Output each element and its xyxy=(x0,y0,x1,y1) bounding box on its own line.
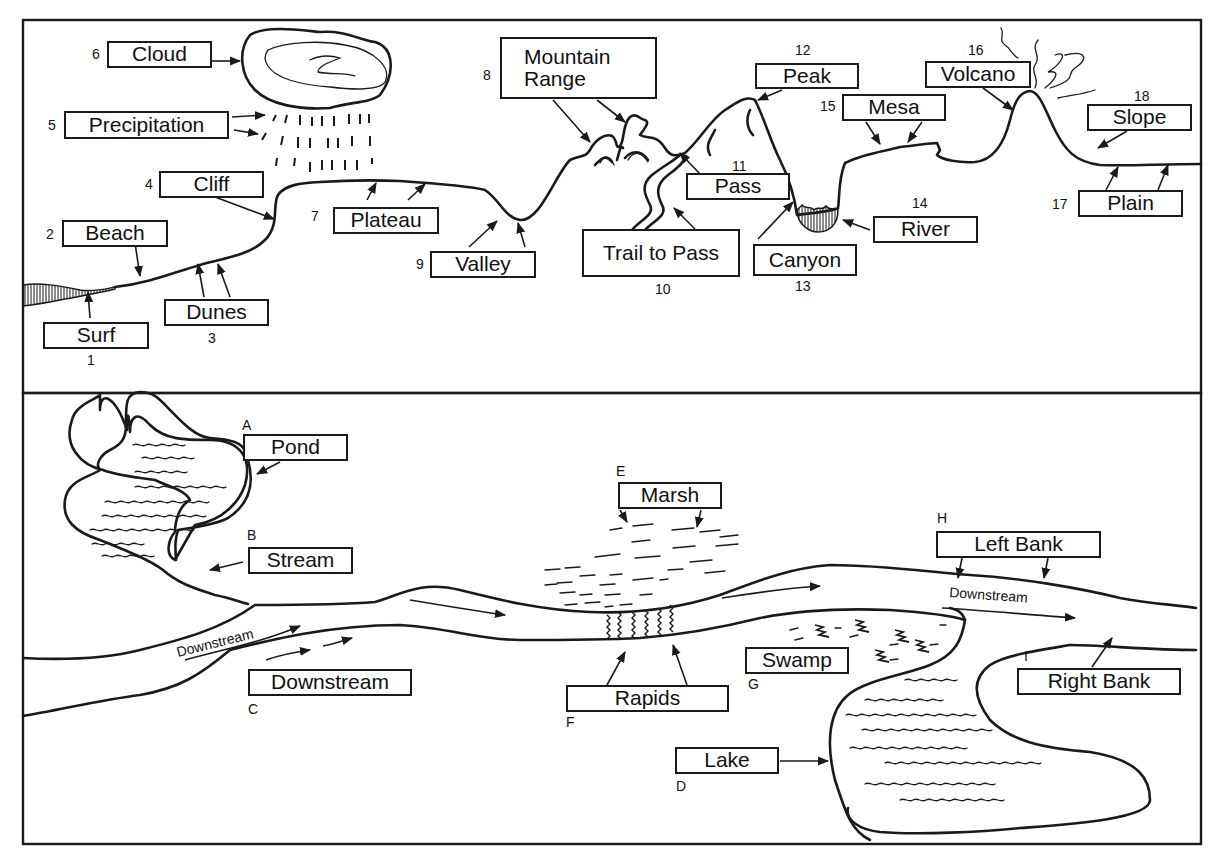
lake-waves xyxy=(846,679,1041,801)
label-number: 12 xyxy=(795,42,811,58)
label-rapids: Rapids xyxy=(566,685,729,712)
label-letter: F xyxy=(566,714,575,730)
precipitation-lines xyxy=(262,114,372,172)
label-number: 2 xyxy=(46,226,54,242)
label-number: 16 xyxy=(968,42,984,58)
label-number: 13 xyxy=(795,278,811,294)
label-cliff: Cliff xyxy=(159,171,264,198)
label-number: 17 xyxy=(1052,196,1068,212)
label-plain: Plain xyxy=(1078,190,1183,217)
label-volcano: Volcano xyxy=(925,61,1031,88)
label-letter: H xyxy=(937,510,947,526)
label-dunes: Dunes xyxy=(164,299,269,326)
label-beach: Beach xyxy=(62,220,168,247)
marsh-dashes xyxy=(545,524,738,607)
peak-ridges xyxy=(708,110,753,155)
label-lake: Lake xyxy=(675,747,779,774)
label-river: River xyxy=(873,216,978,243)
label-number: 7 xyxy=(311,208,319,224)
label-downstream: Downstream xyxy=(248,669,412,696)
label-right-bank: Right Bank xyxy=(1017,668,1181,695)
label-trail-to-pass: Trail to Pass xyxy=(582,229,740,277)
label-number: 14 xyxy=(912,195,928,211)
label-number: 5 xyxy=(48,117,56,133)
label-number: 18 xyxy=(1134,88,1150,104)
mountain-range-details xyxy=(595,147,648,165)
label-mountain-range-line1: Mountain xyxy=(524,46,610,68)
label-mountain-range: Mountain Range xyxy=(500,37,657,99)
flow-label-downstream-1: Downstream xyxy=(175,625,255,660)
label-number: 1 xyxy=(87,352,95,368)
label-number: 9 xyxy=(416,256,424,272)
label-plateau: Plateau xyxy=(333,207,439,234)
label-left-bank: Left Bank xyxy=(936,531,1101,558)
label-mesa: Mesa xyxy=(842,94,946,121)
cloud-shape xyxy=(242,29,390,108)
label-number: 15 xyxy=(820,98,836,114)
trail-shape xyxy=(632,155,686,230)
label-number: 11 xyxy=(732,158,747,174)
label-stream: Stream xyxy=(248,547,353,574)
label-number: 3 xyxy=(208,330,216,346)
label-letter: C xyxy=(248,701,258,717)
label-letter: B xyxy=(247,527,256,543)
label-letter: I xyxy=(1024,648,1028,664)
pond-waves xyxy=(90,444,226,557)
pond-outline xyxy=(65,392,251,604)
label-precipitation: Precipitation xyxy=(64,111,229,139)
canyon-river xyxy=(797,205,838,232)
label-mountain-range-line2: Range xyxy=(524,68,586,90)
bottom-panel-frame xyxy=(23,393,1201,844)
label-letter: D xyxy=(676,778,686,794)
right-bank-line xyxy=(1070,645,1196,650)
label-valley: Valley xyxy=(430,251,536,278)
surf-shape xyxy=(23,284,115,306)
label-pass: Pass xyxy=(686,173,790,200)
label-surf: Surf xyxy=(43,322,149,349)
label-swamp: Swamp xyxy=(745,647,849,674)
label-letter: G xyxy=(748,676,759,692)
label-number: 10 xyxy=(655,281,671,297)
label-pond: Pond xyxy=(243,434,348,461)
label-cloud: Cloud xyxy=(107,41,212,68)
flow-arrows xyxy=(185,586,1075,660)
label-letter: A xyxy=(242,417,251,433)
pond-shape xyxy=(70,395,248,560)
label-letter: E xyxy=(616,463,625,479)
label-slope: Slope xyxy=(1087,104,1192,131)
label-number: 4 xyxy=(145,176,153,192)
flow-label-downstream-2: Downstream xyxy=(949,584,1029,605)
label-number: 6 xyxy=(92,46,100,62)
label-number: 8 xyxy=(483,67,491,83)
label-peak: Peak xyxy=(755,63,859,89)
label-marsh: Marsh xyxy=(618,482,722,509)
label-canyon: Canyon xyxy=(753,244,857,276)
